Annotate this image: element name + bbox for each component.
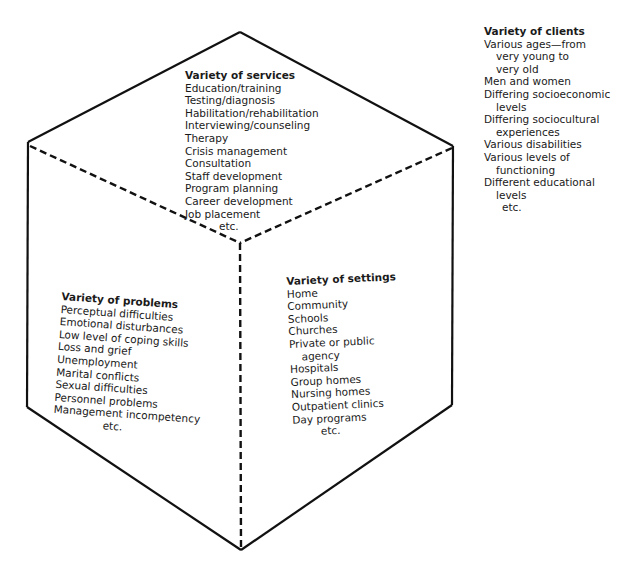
clients-item: Different educational xyxy=(484,176,610,189)
clients-item: Differing socioeconomic xyxy=(484,88,610,101)
edge-right xyxy=(452,146,453,405)
services-item: Interviewing/counseling xyxy=(185,119,319,132)
services-item: Therapy xyxy=(185,132,319,145)
problems-face-list: Variety of problems Perceptual difficult… xyxy=(52,290,208,438)
inner-edge-vertical xyxy=(240,243,241,548)
clients-item: Various disabilities xyxy=(484,138,610,151)
clients-item: levels xyxy=(484,101,610,114)
clients-item: very young to xyxy=(484,50,610,63)
clients-item: functioning xyxy=(484,164,610,177)
services-item: Crisis management xyxy=(185,145,319,158)
clients-item: Differing sociocultural xyxy=(484,113,610,126)
services-etc: etc. xyxy=(185,220,319,233)
services-item: Testing/diagnosis xyxy=(185,94,319,107)
services-item: Program planning xyxy=(185,182,319,195)
clients-etc: etc. xyxy=(484,201,610,214)
clients-item: levels xyxy=(484,189,610,202)
clients-list: Variety of clients Various ages—from ver… xyxy=(484,25,610,214)
clients-item: Various ages—from xyxy=(484,38,610,51)
clients-item: experiences xyxy=(484,126,610,139)
clients-title: Variety of clients xyxy=(484,25,610,38)
services-title: Variety of services xyxy=(185,69,319,82)
services-item: Job placement xyxy=(185,208,319,221)
services-face-list: Variety of services Education/training T… xyxy=(185,69,319,233)
services-item: Habilitation/rehabilitation xyxy=(185,107,319,120)
settings-face-list: Variety of settings Home Community Schoo… xyxy=(286,270,403,438)
services-item: Career development xyxy=(185,195,319,208)
services-item: Staff development xyxy=(185,170,319,183)
edge-left xyxy=(27,142,28,407)
clients-item: Men and women xyxy=(484,75,610,88)
clients-item: Various levels of xyxy=(484,151,610,164)
services-item: Consultation xyxy=(185,157,319,170)
services-item: Education/training xyxy=(185,82,319,95)
clients-item: very old xyxy=(484,63,610,76)
